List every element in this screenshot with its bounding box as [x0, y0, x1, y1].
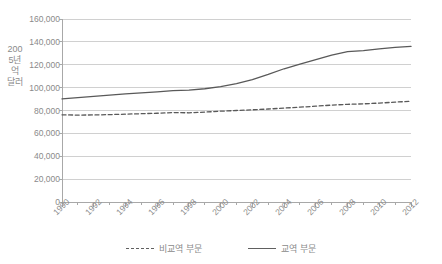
- legend-label: 비교역 부문: [159, 242, 202, 255]
- chart-legend: 비교역 부문교역 부문: [0, 238, 442, 258]
- series-line-1: [62, 101, 411, 115]
- legend-swatch-solid: [248, 248, 276, 249]
- series-line-2: [62, 46, 411, 98]
- legend-swatch-dashed: [126, 248, 154, 249]
- plot-area: [0, 0, 442, 264]
- legend-label: 교역 부문: [281, 242, 316, 255]
- legend-entry[interactable]: 교역 부문: [248, 242, 316, 255]
- legend-entry[interactable]: 비교역 부문: [126, 242, 202, 255]
- line-chart: 2005년 억 달러 020,00040,00060,00080,000100,…: [0, 0, 442, 264]
